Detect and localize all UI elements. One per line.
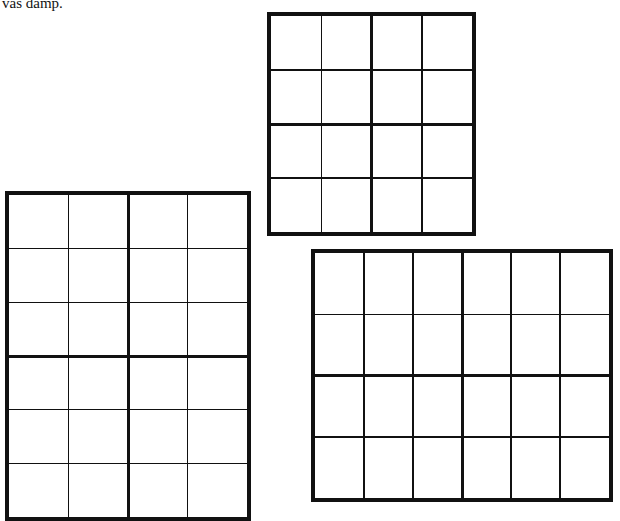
right-grid (311, 249, 613, 502)
grid-line-horizontal (271, 69, 472, 71)
grid-line-horizontal (9, 409, 247, 411)
grid-divider-horizontal-bold (315, 374, 609, 377)
grid-line-horizontal (9, 248, 247, 250)
grid-divider-horizontal-bold (9, 355, 247, 358)
top-grid (267, 12, 476, 236)
left-grid (5, 191, 251, 521)
grid-line-horizontal (9, 302, 247, 304)
text-fragment: vas damp. (2, 0, 63, 11)
grid-line-horizontal (271, 177, 472, 179)
grid-divider-horizontal-bold (271, 123, 472, 126)
grid-line-horizontal (315, 314, 609, 316)
grid-line-horizontal (315, 436, 609, 438)
grid-line-horizontal (9, 463, 247, 465)
